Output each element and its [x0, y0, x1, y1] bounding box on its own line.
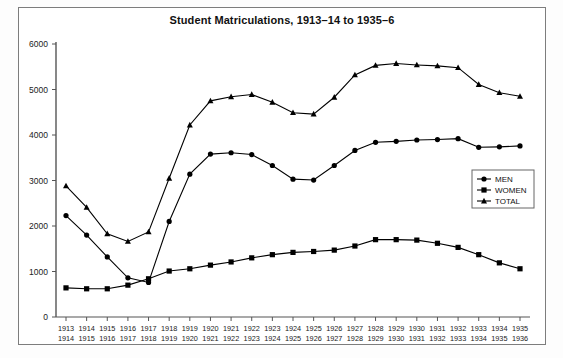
y-tick-label: 2000 — [29, 221, 48, 231]
legend-marker-circle — [481, 176, 486, 181]
legend-marker-square — [481, 187, 486, 192]
data-point — [497, 144, 502, 149]
x-tick-label-top: 1921 — [223, 324, 239, 333]
x-tick-label-top: 1913 — [58, 324, 74, 333]
series-line — [66, 64, 520, 242]
x-tick-label-bottom: 1934 — [471, 334, 487, 343]
data-point — [228, 259, 233, 264]
series-line — [66, 240, 520, 289]
x-tick-label-bottom: 1922 — [223, 334, 239, 343]
x-tick-label-bottom: 1928 — [347, 334, 363, 343]
x-tick-label-bottom: 1936 — [512, 334, 528, 343]
data-point — [290, 177, 295, 182]
x-tick-label-top: 1928 — [367, 324, 383, 333]
data-point — [63, 183, 69, 189]
x-tick-label-top: 1919 — [182, 324, 198, 333]
x-tick-label-bottom: 1917 — [120, 334, 136, 343]
legend-label: MEN — [495, 175, 513, 184]
data-point — [517, 266, 522, 271]
data-point — [167, 219, 172, 224]
data-point — [455, 136, 460, 141]
legend-label: TOTAL — [495, 197, 521, 206]
x-tick-label-top: 1922 — [244, 324, 260, 333]
data-point — [146, 276, 151, 281]
data-point — [63, 285, 68, 290]
x-tick-label-bottom: 1915 — [79, 334, 95, 343]
x-tick-label-bottom: 1933 — [450, 334, 466, 343]
x-tick-label-bottom: 1923 — [244, 334, 260, 343]
data-point — [394, 139, 399, 144]
data-point — [63, 213, 68, 218]
line-chart-plot: 0100020003000400050006000191319141914191… — [0, 0, 563, 358]
x-tick-label-top: 1915 — [99, 324, 115, 333]
data-point — [125, 275, 130, 280]
x-tick-label-bottom: 1927 — [326, 334, 342, 343]
y-tick-label: 6000 — [29, 39, 48, 49]
x-tick-label-top: 1933 — [471, 324, 487, 333]
data-point — [146, 229, 152, 235]
data-point — [497, 260, 502, 265]
x-tick-label-bottom: 1931 — [409, 334, 425, 343]
y-tick-label: 4000 — [29, 130, 48, 140]
x-tick-label-bottom: 1935 — [491, 334, 507, 343]
x-tick-label-top: 1931 — [429, 324, 445, 333]
data-point — [394, 237, 399, 242]
x-tick-label-top: 1918 — [161, 324, 177, 333]
data-point — [476, 252, 481, 257]
data-point — [84, 233, 89, 238]
data-point — [517, 143, 522, 148]
x-tick-label-bottom: 1930 — [388, 334, 404, 343]
data-point — [455, 245, 460, 250]
y-tick-label: 3000 — [29, 176, 48, 186]
x-tick-label-top: 1927 — [347, 324, 363, 333]
x-tick-label-top: 1924 — [285, 324, 301, 333]
x-tick-label-top: 1935 — [512, 324, 528, 333]
x-tick-label-bottom: 1920 — [182, 334, 198, 343]
data-point — [228, 150, 233, 155]
data-point — [208, 263, 213, 268]
series-total — [63, 60, 523, 244]
x-tick-label-top: 1932 — [450, 324, 466, 333]
data-point — [311, 177, 316, 182]
data-point — [352, 243, 357, 248]
series-women — [63, 237, 522, 291]
x-tick-label-top: 1926 — [326, 324, 342, 333]
data-point — [208, 152, 213, 157]
x-tick-label-top: 1925 — [306, 324, 322, 333]
y-tick-label: 0 — [43, 312, 48, 322]
x-tick-label-top: 1929 — [388, 324, 404, 333]
x-tick-label-bottom: 1929 — [367, 334, 383, 343]
data-point — [105, 286, 110, 291]
data-point — [84, 286, 89, 291]
x-tick-label-top: 1934 — [491, 324, 507, 333]
x-tick-label-top: 1914 — [79, 324, 95, 333]
y-tick-label: 1000 — [29, 267, 48, 277]
data-point — [125, 283, 130, 288]
data-point — [249, 152, 254, 157]
data-point — [352, 148, 357, 153]
data-point — [166, 175, 172, 181]
x-tick-label-bottom: 1916 — [99, 334, 115, 343]
data-point — [187, 266, 192, 271]
chart-canvas: Student Matriculations, 1913–14 to 1935–… — [0, 0, 563, 358]
x-tick-label-top: 1920 — [202, 324, 218, 333]
data-point — [270, 163, 275, 168]
x-tick-label-bottom: 1919 — [161, 334, 177, 343]
data-point — [332, 248, 337, 253]
data-point — [435, 137, 440, 142]
x-tick-label-top: 1923 — [264, 324, 280, 333]
y-tick-label: 5000 — [29, 85, 48, 95]
data-point — [311, 249, 316, 254]
x-tick-label-bottom: 1914 — [58, 334, 74, 343]
data-point — [373, 140, 378, 145]
data-point — [332, 163, 337, 168]
series-line — [66, 139, 520, 283]
data-point — [105, 254, 110, 259]
data-point — [476, 145, 481, 150]
x-tick-label-bottom: 1924 — [264, 334, 280, 343]
data-point — [414, 137, 419, 142]
x-tick-label-bottom: 1926 — [306, 334, 322, 343]
series-men — [63, 136, 522, 285]
data-point — [167, 268, 172, 273]
x-tick-label-top: 1917 — [140, 324, 156, 333]
